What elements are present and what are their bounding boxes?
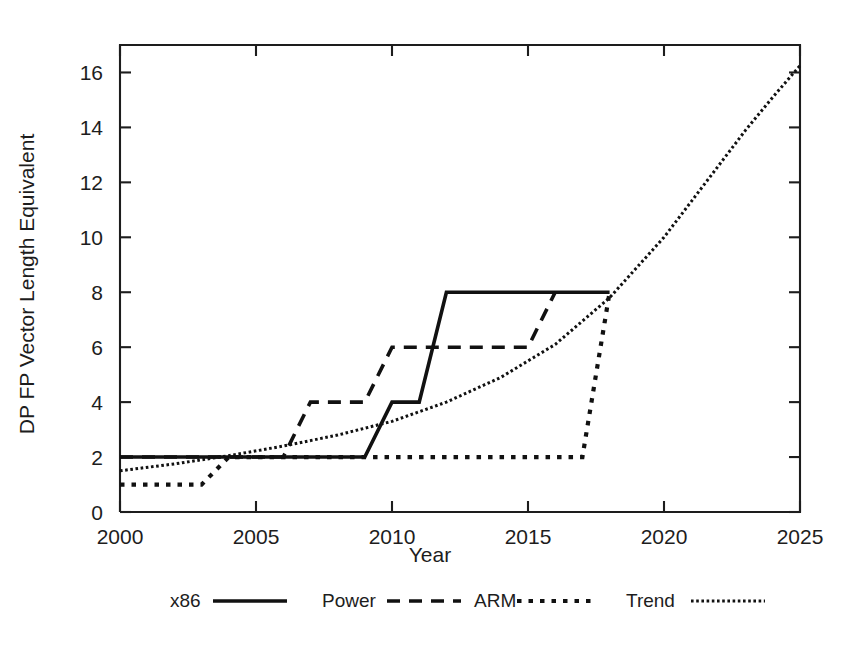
legend-label-trend: Trend [626,590,675,611]
x-tick-label: 2020 [641,525,688,548]
chart-figure: 200020052010201520202025 0246810121416 x… [0,0,849,656]
y-tick-label: 16 [80,61,103,84]
x-tick-label: 2005 [233,525,280,548]
y-tick-label: 8 [91,281,103,304]
x-axis-title: Year [409,543,451,566]
y-tick-label: 0 [91,501,103,524]
y-tick-label: 6 [91,336,103,359]
y-axis-title: DP FP Vector Length Equivalent [15,134,38,435]
y-tick-label: 2 [91,446,103,469]
y-tick-label: 10 [80,226,103,249]
x-tick-label: 2000 [97,525,144,548]
x-tick-label: 2025 [777,525,824,548]
y-tick-label: 12 [80,171,103,194]
legend-label-power: Power [322,590,377,611]
chart-svg: 200020052010201520202025 0246810121416 x… [0,0,849,656]
legend-label-arm: ARM [474,590,516,611]
y-tick-label: 4 [91,391,103,414]
y-tick-label: 14 [80,116,104,139]
x-tick-label: 2015 [505,525,552,548]
legend-label-x86: x86 [170,590,201,611]
